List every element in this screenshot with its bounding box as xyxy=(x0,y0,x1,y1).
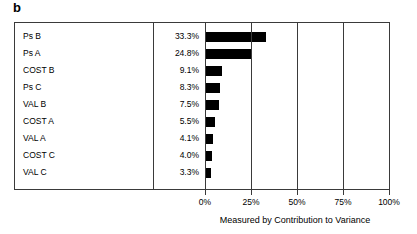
row-value-label: 24.8% xyxy=(155,45,199,62)
row-value-label: 9.1% xyxy=(155,62,199,79)
row-category-label: Ps C xyxy=(23,79,41,96)
gridline-25 xyxy=(251,23,252,189)
bar xyxy=(205,32,266,42)
bar-rows: Ps B33.3%Ps A24.8%COST B9.1%Ps C8.3%VAL … xyxy=(15,23,389,189)
axis-caption: Measured by Contribution to Variance xyxy=(191,214,399,226)
bar xyxy=(205,100,219,110)
bar xyxy=(205,83,220,93)
tick-mark-50 xyxy=(297,190,298,195)
gridline-75 xyxy=(343,23,344,189)
row-category-label: VAL C xyxy=(23,164,47,181)
row-value-label: 7.5% xyxy=(155,96,199,113)
row-category-label: Ps A xyxy=(23,45,40,62)
bar xyxy=(205,134,213,144)
row-value-label: 8.3% xyxy=(155,79,199,96)
axis-tick-marks xyxy=(14,190,390,195)
row-value-label: 3.3% xyxy=(155,164,199,181)
row-category-label: Ps B xyxy=(23,28,41,45)
row-category-label: VAL A xyxy=(23,130,46,147)
chart-row: COST C4.0% xyxy=(15,147,389,164)
bar xyxy=(205,151,212,161)
tick-mark-0 xyxy=(205,190,206,195)
chart-row: COST B9.1% xyxy=(15,62,389,79)
tick-mark-75 xyxy=(343,190,344,195)
chart-row: COST A5.5% xyxy=(15,113,389,130)
bar xyxy=(205,66,222,76)
bar xyxy=(205,49,251,59)
chart-row: VAL B7.5% xyxy=(15,96,389,113)
chart-row: Ps B33.3% xyxy=(15,28,389,45)
tick-mark-25 xyxy=(251,190,252,195)
row-category-label: COST C xyxy=(23,147,55,164)
gridline-50 xyxy=(297,23,298,189)
axis-tick-labels: 0%25%50%75%100% xyxy=(0,196,417,208)
row-value-label: 4.0% xyxy=(155,147,199,164)
row-category-label: COST B xyxy=(23,62,55,79)
chart-row: VAL A4.1% xyxy=(15,130,389,147)
chart-plot-area: Ps B33.3%Ps A24.8%COST B9.1%Ps C8.3%VAL … xyxy=(14,22,390,190)
row-value-label: 5.5% xyxy=(155,113,199,130)
row-category-label: COST A xyxy=(23,113,54,130)
chart-row: VAL C3.3% xyxy=(15,164,389,181)
chart-row: Ps C8.3% xyxy=(15,79,389,96)
row-value-label: 4.1% xyxy=(155,130,199,147)
gridline-0 xyxy=(205,23,206,189)
figure-panel-b: b Ps B33.3%Ps A24.8%COST B9.1%Ps C8.3%VA… xyxy=(0,0,417,234)
bar xyxy=(205,117,215,127)
row-value-label: 33.3% xyxy=(155,28,199,45)
tick-mark-100 xyxy=(389,190,390,195)
tick-label-100: 100% xyxy=(359,196,417,208)
chart-row: Ps A24.8% xyxy=(15,45,389,62)
row-category-label: VAL B xyxy=(23,96,46,113)
panel-letter-label: b xyxy=(13,1,21,15)
